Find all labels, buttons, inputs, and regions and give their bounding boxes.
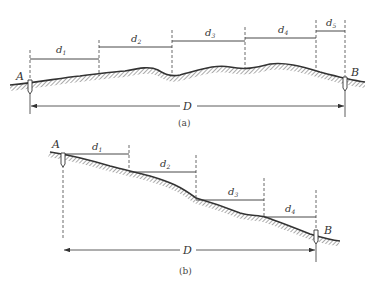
segment-label-b-3: d3 — [228, 186, 238, 198]
segment-label-a-3: d3 — [205, 27, 215, 39]
point-label-a-start: A — [15, 70, 24, 83]
segment-lines-a — [30, 31, 345, 59]
ground-hatch-b — [48, 152, 340, 246]
segment-label-a-5: d5 — [326, 17, 336, 29]
segment-label-a-4: d4 — [278, 24, 288, 36]
diagram-canvas: d1 d2 d3 d4 d5 A B D (a) — [0, 0, 371, 290]
stake-icon-b-end — [314, 230, 318, 244]
point-label-a-end: B — [350, 66, 359, 79]
stake-icon-b-start — [61, 153, 65, 167]
segment-label-b-4: d4 — [285, 203, 295, 215]
point-label-b-end: B — [323, 224, 332, 237]
dimension-label-b: D — [182, 244, 192, 257]
segment-label-a-1: d1 — [56, 44, 66, 56]
segment-label-b-1: d1 — [92, 141, 102, 153]
dimension-label-a: D — [182, 100, 192, 113]
caption-b: (b) — [179, 266, 192, 276]
ground-hatch-a — [10, 63, 365, 91]
stake-icon-a-end — [343, 77, 347, 91]
segment-label-b-2: d2 — [160, 158, 170, 170]
segment-label-a-2: d2 — [131, 33, 141, 45]
figure-b: d1 d2 d3 d4 A B D (b) — [48, 138, 340, 276]
caption-a: (a) — [178, 118, 190, 128]
figure-a: d1 d2 d3 d4 d5 A B D (a) — [10, 17, 365, 128]
stake-icon-a-start — [28, 80, 32, 94]
point-label-b-start: A — [51, 138, 60, 151]
